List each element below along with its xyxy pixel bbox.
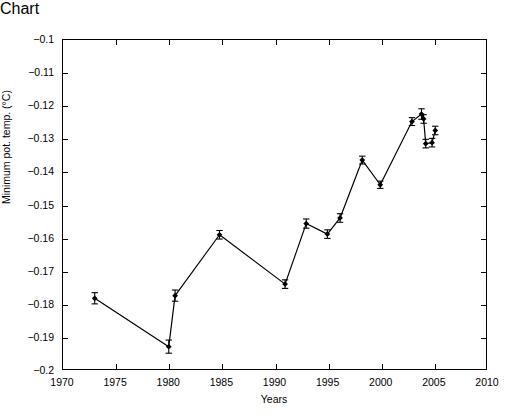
- x-axis-title: Years: [261, 393, 287, 405]
- x-tick-label: 2005: [422, 376, 445, 388]
- data-point-marker: [303, 221, 309, 227]
- plot-area: [62, 39, 487, 370]
- y-tick-label: −0.14: [27, 165, 54, 177]
- chart-figure: −0.2−0.19−0.18−0.17−0.16−0.15−0.14−0.13−…: [0, 18, 509, 415]
- data-point-marker: [432, 128, 438, 134]
- y-tick-label: −0.13: [27, 132, 54, 144]
- data-point-marker: [423, 141, 429, 147]
- y-axis-title: Minimum pot. temp. (°C): [0, 90, 12, 204]
- y-tick-label: −0.12: [27, 99, 54, 111]
- data-point-marker: [429, 140, 435, 146]
- y-tick-label: −0.17: [27, 265, 54, 277]
- y-tick-label: −0.2: [33, 364, 54, 376]
- x-tick-label: 1975: [103, 376, 126, 388]
- x-tick-label: 2010: [475, 376, 498, 388]
- y-tick-label: −0.15: [27, 199, 54, 211]
- y-tick-label: −0.16: [27, 232, 54, 244]
- x-tick-label: 2000: [369, 376, 392, 388]
- x-tick-label: 1990: [263, 376, 286, 388]
- x-tick-label: 1970: [50, 376, 73, 388]
- chart-series-canvas: [63, 40, 486, 369]
- x-tick-label: 1995: [316, 376, 339, 388]
- y-tick-label: −0.18: [27, 298, 54, 310]
- x-tick-label: 1980: [157, 376, 180, 388]
- y-tick-label: −0.19: [27, 331, 54, 343]
- y-tick-label: −0.11: [28, 66, 54, 78]
- x-tick-label: 1985: [210, 376, 233, 388]
- series-line: [95, 114, 436, 347]
- y-tick-label: −0.1: [33, 33, 54, 45]
